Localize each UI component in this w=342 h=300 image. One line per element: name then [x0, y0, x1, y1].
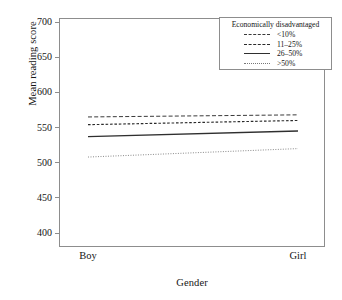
legend-item-lt10: <10% [220, 30, 331, 40]
figure-canvas: Mean reading score Gender 700 650 600 55… [0, 0, 342, 300]
legend-swatch-dotted-icon [244, 61, 270, 66]
legend-swatch-long-dash-icon [244, 32, 270, 37]
y-axis-title: Mean reading score [27, 0, 38, 144]
x-axis-tick-girl: Girl [268, 250, 328, 261]
legend-item-gt50: >50% [220, 59, 331, 69]
y-axis-tick-label: 550 [37, 121, 52, 134]
legend-item-label: 26–50% [277, 49, 302, 59]
legend-title: Economically disadvantaged [220, 20, 331, 30]
legend-item-11-25: 11–25% [220, 40, 331, 50]
y-axis-tick-label: 700 [37, 15, 52, 28]
y-axis-tick-label: 500 [37, 156, 52, 169]
y-axis-tick-label: 600 [37, 85, 52, 98]
legend-box: Economically disadvantaged <10% 11–25% 2… [219, 17, 332, 70]
legend-swatch-dash-icon [244, 42, 270, 47]
x-axis-title: Gender [59, 277, 325, 288]
legend-item-label: <10% [277, 30, 295, 40]
legend-item-label: 11–25% [277, 40, 302, 50]
x-axis-tick-boy: Boy [58, 250, 118, 261]
legend-item-label: >50% [277, 59, 295, 69]
y-axis-tick-label: 650 [37, 50, 52, 63]
legend-item-26-50: 26–50% [220, 49, 331, 59]
y-axis-tick-label: 450 [37, 191, 52, 204]
legend-swatch-solid-icon [244, 51, 270, 56]
y-axis-tick-label: 400 [37, 226, 52, 239]
